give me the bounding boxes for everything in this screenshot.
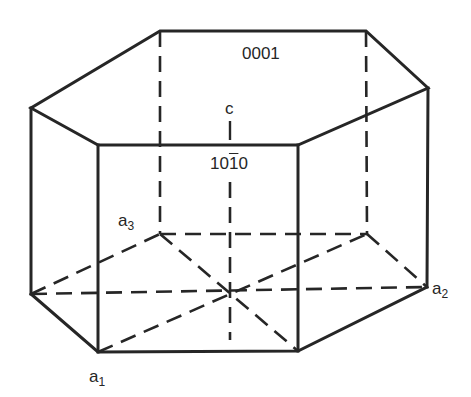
hidden-edges — [31, 31, 427, 352]
hexagonal-prism-diagram — [0, 0, 471, 397]
a3-axis-label: a3 — [118, 212, 134, 232]
right-vertical-edge — [427, 88, 428, 287]
a2-axis-label: a2 — [432, 280, 448, 300]
a1-sub: 1 — [98, 375, 105, 389]
basal-plane-label: 0001 — [242, 45, 280, 62]
prism-index-4: 0 — [238, 154, 247, 173]
prism-plane-label: 1010 — [210, 155, 248, 172]
prism-index-3-bar: 1 — [229, 154, 238, 173]
a3-sub: 3 — [127, 219, 134, 233]
a1-axis-label: a1 — [89, 368, 105, 388]
bottom-back-right-edge — [367, 234, 427, 287]
bottom-back-left-edge — [31, 234, 160, 294]
c-axis-label: c — [225, 100, 234, 117]
prism-index-2: 0 — [219, 154, 228, 173]
back-right-vertical-edge — [366, 31, 367, 234]
a2-sub: 2 — [441, 287, 448, 301]
